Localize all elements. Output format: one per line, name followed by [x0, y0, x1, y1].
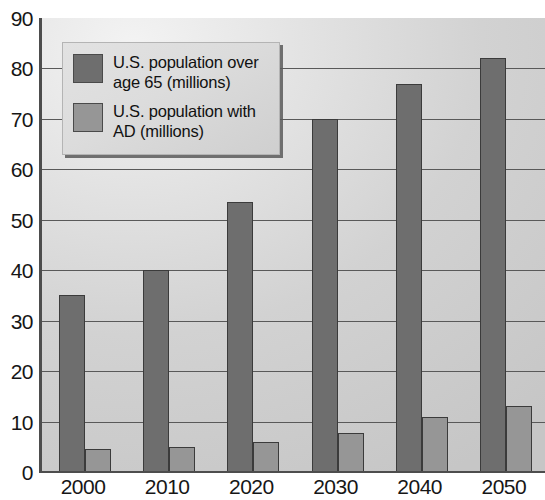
- bar-2010-series2: [169, 447, 195, 472]
- y-tick-0: 0: [0, 462, 33, 483]
- x-axis-line: [40, 471, 545, 473]
- y-tick-30: 30: [0, 311, 33, 332]
- gridline-20: [42, 371, 545, 372]
- bar-2030-series1: [312, 119, 338, 472]
- y-tick-60: 60: [0, 159, 33, 180]
- bar-2040-series1: [396, 84, 422, 472]
- bar-2020-series2: [253, 442, 279, 472]
- bar-2010-series1: [143, 270, 169, 472]
- gridline-30: [42, 321, 545, 322]
- x-tick-2050: 2050: [464, 476, 544, 497]
- legend-label-over-65-line2: age 65 (millions): [113, 73, 231, 91]
- x-tick-2020: 2020: [211, 476, 291, 497]
- gridline-10: [42, 422, 545, 423]
- x-tick-2000: 2000: [43, 476, 123, 497]
- legend-item-over-65: U.S. population over age 65 (millions): [73, 52, 271, 92]
- legend-item-ad: U.S. population with AD (millions): [73, 101, 271, 141]
- bar-2030-series2: [338, 433, 364, 472]
- gridline-40: [42, 270, 545, 271]
- legend-label-over-65: U.S. population over age 65 (millions): [113, 52, 259, 92]
- legend-label-ad-line2: AD (millions): [113, 122, 204, 140]
- y-tick-40: 40: [0, 260, 33, 281]
- legend-swatch-ad: [73, 103, 103, 132]
- bar-2020-series1: [227, 202, 253, 472]
- y-tick-70: 70: [0, 109, 33, 130]
- bar-2040-series2: [422, 417, 448, 473]
- bar-chart: 0102030405060708090 20002010202020302040…: [0, 0, 545, 500]
- bar-2050-series2: [506, 406, 532, 472]
- y-axis-line: [39, 18, 41, 473]
- legend-swatch-over-65: [73, 54, 103, 83]
- gridline-50: [42, 220, 545, 221]
- x-tick-2040: 2040: [380, 476, 460, 497]
- y-tick-10: 10: [0, 412, 33, 433]
- gridline-60: [42, 169, 545, 170]
- chart-legend: U.S. population over age 65 (millions) U…: [62, 42, 280, 155]
- y-tick-90: 90: [0, 8, 33, 29]
- bar-2050-series1: [480, 58, 506, 472]
- legend-label-ad: U.S. population with AD (millions): [113, 101, 256, 141]
- legend-label-over-65-line1: U.S. population over: [113, 53, 259, 71]
- y-tick-80: 80: [0, 58, 33, 79]
- legend-label-ad-line1: U.S. population with: [113, 102, 256, 120]
- y-tick-20: 20: [0, 361, 33, 382]
- bar-2000-series2: [85, 449, 111, 472]
- bar-2000-series1: [59, 295, 85, 472]
- x-tick-2010: 2010: [127, 476, 207, 497]
- y-tick-50: 50: [0, 210, 33, 231]
- x-tick-2030: 2030: [296, 476, 376, 497]
